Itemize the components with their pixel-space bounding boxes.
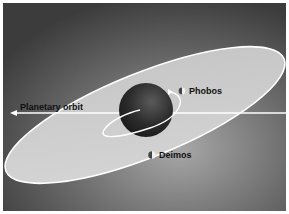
deimos-label: Deimos (159, 150, 192, 160)
mars-moons-diagram: Planetary orbit Phobos Deimos (0, 0, 289, 214)
planetary-orbit-label: Planetary orbit (20, 102, 83, 112)
phobos-label: Phobos (189, 86, 222, 96)
deimos-moon (148, 151, 156, 159)
phobos-moon (179, 88, 186, 95)
